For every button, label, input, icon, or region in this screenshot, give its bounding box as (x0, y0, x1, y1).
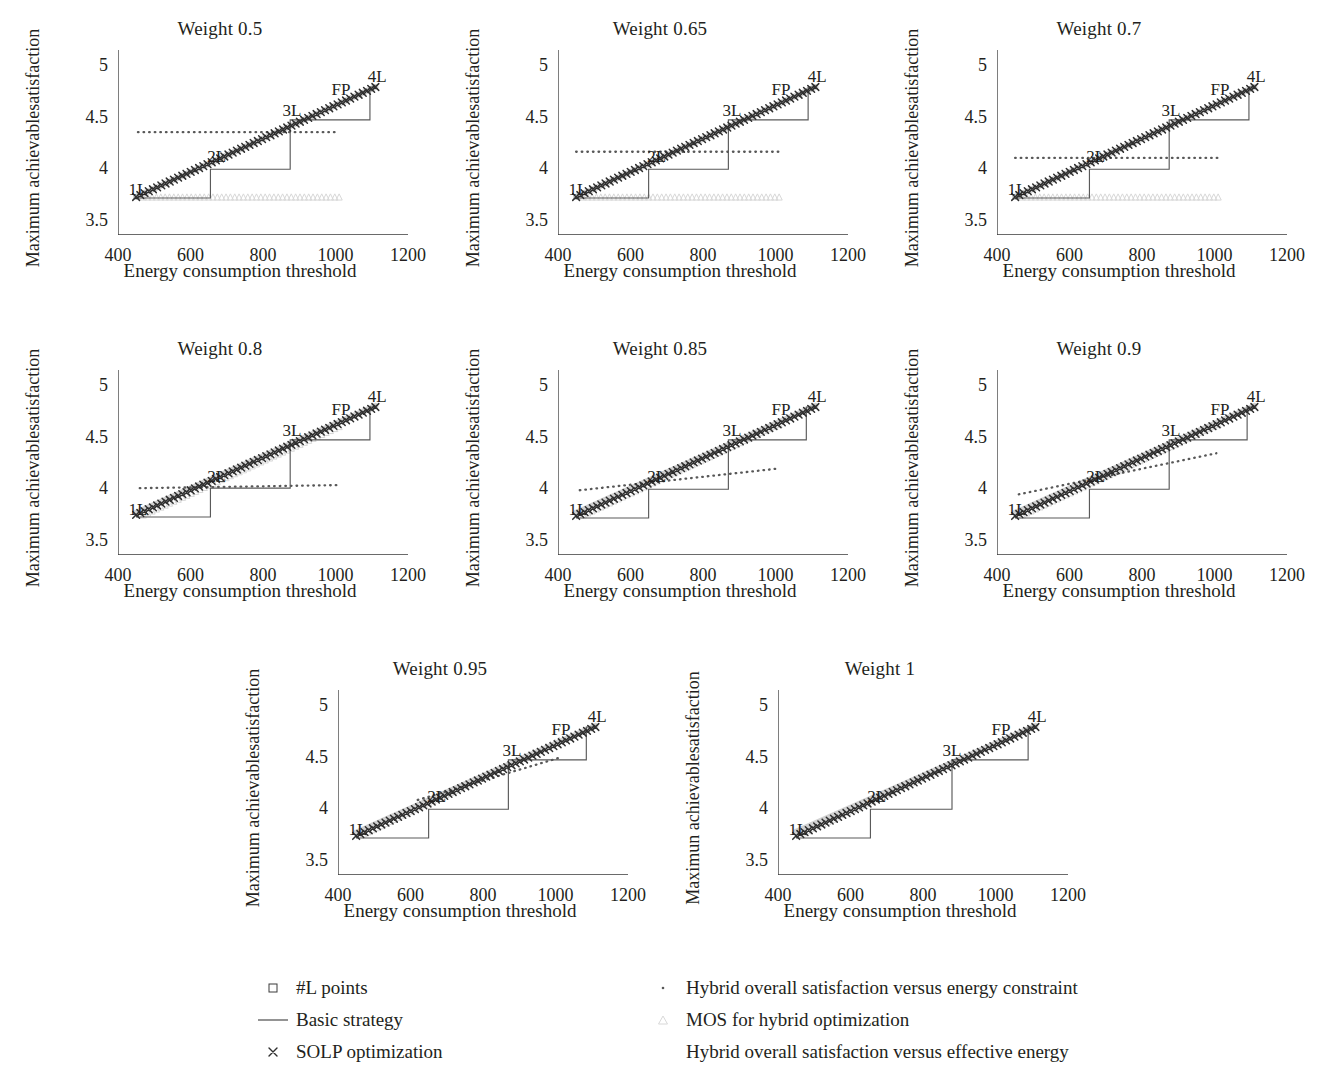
legend-item-label: Hybrid overall satisfaction versus effec… (686, 1041, 1069, 1063)
legend-cross-marker (250, 1044, 296, 1060)
x-axis-tick-label: 800 (250, 246, 277, 264)
legend-column-left: #L pointsBasic strategySOLP optimization (250, 972, 443, 1068)
legend-item-label: Basic strategy (296, 1009, 403, 1031)
annotation-2l: 2L (207, 467, 226, 484)
x-axis-tick-label: 1200 (390, 566, 426, 584)
x-axis-label: Energy consumption threshold (480, 580, 880, 602)
plot-area: 3.544.55400600800100012001L2L3L4LFP (997, 50, 1287, 235)
figure-multi-panel-chart: Weight 0.5Maximum achievablesatisfaction… (0, 0, 1319, 1083)
annotation-1l: 1L (1007, 500, 1026, 517)
x-axis-tick-label: 1200 (830, 246, 866, 264)
x-axis-tick-label: 400 (105, 566, 132, 584)
x-axis-tick-label: 400 (984, 246, 1011, 264)
annotation-2l: 2L (207, 147, 226, 164)
y-axis-label-line-2: satisfaction (683, 671, 704, 753)
y-axis-tick-label: 3.5 (965, 211, 988, 229)
annotation-1l: 1L (788, 820, 807, 837)
subplot-weight-0-7: Weight 0.7Maximum achievablesatisfaction… (879, 14, 1319, 314)
annotation-4l: 4L (1028, 707, 1047, 724)
plot-area: 3.544.55400600800100012001L2L3L4LFP (778, 690, 1068, 875)
x-axis-tick-label: 800 (1129, 566, 1156, 584)
y-axis-tick-label: 4.5 (86, 108, 109, 126)
annotation-3l: 3L (283, 101, 302, 118)
annotation-3l: 3L (723, 421, 742, 438)
y-axis-tick-label: 4 (539, 159, 548, 177)
y-axis-tick-label: 4.5 (86, 428, 109, 446)
annotation-3l: 3L (1162, 421, 1181, 438)
x-axis-label: Energy consumption threshold (40, 260, 440, 282)
annotation-4l: 4L (1247, 387, 1266, 404)
plot-area: 3.544.55400600800100012001L2L3L4LFP (558, 50, 848, 235)
y-axis-tick-label: 3.5 (86, 531, 109, 549)
annotation-1l: 1L (128, 500, 147, 517)
x-axis-tick-label: 400 (545, 246, 572, 264)
subplot-title: Weight 0.65 (440, 18, 880, 40)
y-axis-tick-label: 4.5 (965, 428, 988, 446)
x-axis-tick-label: 800 (250, 566, 277, 584)
legend-square-marker (250, 980, 296, 996)
x-axis-tick-label: 800 (470, 886, 497, 904)
annotation-fp: FP (991, 721, 1010, 738)
annotation-3l: 3L (723, 101, 742, 118)
figure-legend: #L pointsBasic strategySOLP optimization… (250, 972, 1070, 1072)
x-axis-tick-label: 400 (325, 886, 352, 904)
x-axis-tick-label: 1200 (390, 246, 426, 264)
y-axis-tick-label: 4.5 (306, 748, 329, 766)
legend-item[interactable]: #L points (250, 972, 443, 1004)
annotation-fp: FP (771, 81, 790, 98)
x-axis-tick-label: 1200 (1269, 566, 1305, 584)
x-axis-tick-label: 1200 (1269, 246, 1305, 264)
x-axis-tick-label: 600 (397, 886, 424, 904)
x-axis-tick-label: 400 (984, 566, 1011, 584)
y-axis-tick-label: 5 (99, 376, 108, 394)
y-axis-label-line-1: Maximum achievable (243, 751, 264, 907)
annotation-3l: 3L (503, 741, 522, 758)
y-axis-tick-label: 3.5 (86, 211, 109, 229)
x-axis-tick-label: 600 (1056, 566, 1083, 584)
x-axis-tick-label: 1000 (538, 886, 574, 904)
x-axis-tick-label: 1000 (978, 886, 1014, 904)
subplot-title: Weight 1 (660, 658, 1100, 680)
y-axis-label-line-1: Maximun achievable (683, 753, 704, 904)
y-axis-tick-label: 3.5 (746, 851, 769, 869)
subplot-title: Weight 0.95 (220, 658, 660, 680)
y-axis-tick-label: 4 (978, 479, 987, 497)
x-axis-tick-label: 800 (690, 246, 717, 264)
subplot-weight-0-9: Weight 0.9Maximum achievablesatisfaction… (879, 334, 1319, 634)
x-axis-tick-label: 800 (690, 566, 717, 584)
y-axis-tick-label: 5 (319, 696, 328, 714)
annotation-2l: 2L (1086, 467, 1105, 484)
y-axis-tick-label: 5 (759, 696, 768, 714)
y-axis-label-line-2: satisfaction (902, 349, 923, 431)
y-axis-label: Maximum achievablesatisfaction (0, 368, 134, 568)
plot-area: 3.544.55400600800100012001L2L3L4LFP (558, 370, 848, 555)
y-axis-tick-label: 3.5 (965, 531, 988, 549)
x-axis-tick-label: 600 (617, 246, 644, 264)
plot-area: 3.544.55400600800100012001L2L3L4LFP (338, 690, 628, 875)
y-axis-tick-label: 4 (539, 479, 548, 497)
legend-marker-blank (640, 1044, 686, 1060)
annotation-3l: 3L (943, 741, 962, 758)
y-axis-tick-label: 3.5 (526, 211, 549, 229)
y-axis-tick-label: 4.5 (746, 748, 769, 766)
y-axis-label-line-2: satisfaction (23, 349, 44, 431)
x-axis-tick-label: 400 (765, 886, 792, 904)
subplot-title: Weight 0.7 (879, 18, 1319, 40)
x-axis-tick-label: 600 (177, 246, 204, 264)
legend-item[interactable]: SOLP optimization (250, 1036, 443, 1068)
legend-item[interactable]: Hybrid overall satisfaction versus energ… (640, 972, 1078, 1004)
legend-item[interactable]: Basic strategy (250, 1004, 443, 1036)
y-axis-tick-label: 5 (978, 56, 987, 74)
annotation-3l: 3L (1162, 101, 1181, 118)
legend-item-label: Hybrid overall satisfaction versus energ… (686, 977, 1078, 999)
annotation-fp: FP (331, 81, 350, 98)
legend-item[interactable]: MOS for hybrid optimization (640, 1004, 1078, 1036)
x-axis-tick-label: 1000 (318, 246, 354, 264)
plot-area: 3.544.55400600800100012001L2L3L4LFP (997, 370, 1287, 555)
y-axis-tick-label: 4.5 (526, 428, 549, 446)
annotation-fp: FP (1210, 401, 1229, 418)
y-axis-label-line-2: satisfaction (902, 29, 923, 111)
x-axis-label: Energy consumption threshold (40, 580, 440, 602)
legend-item[interactable]: Hybrid overall satisfaction versus effec… (640, 1036, 1078, 1068)
y-axis-tick-label: 4 (319, 799, 328, 817)
